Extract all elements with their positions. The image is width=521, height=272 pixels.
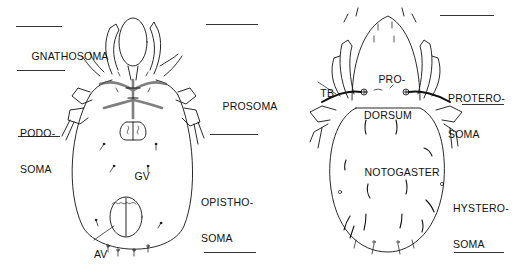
ventral-mite-drawing	[62, 18, 204, 256]
mite-illustrations	[0, 0, 521, 272]
mite-anatomy-figure: GNATHOSOMA PODO- SOMA PROSOMA OPISTHO- S…	[0, 0, 521, 272]
dorsal-mite-drawing	[310, 8, 462, 254]
